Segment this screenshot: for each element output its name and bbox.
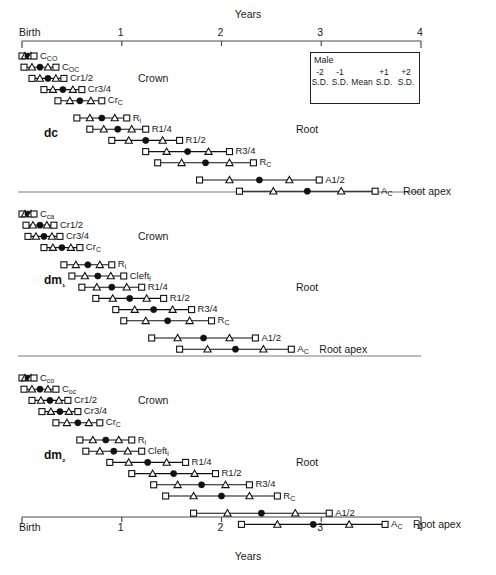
data-row: [197, 176, 323, 183]
row-label: RC: [218, 314, 230, 326]
axis-tick-label-1: 1: [118, 521, 124, 533]
stage-label-crown: Crown: [138, 72, 168, 84]
row-label: Cco: [40, 372, 54, 384]
data-row: [74, 114, 130, 121]
row-label: CrC: [108, 94, 123, 106]
data-row: [143, 148, 233, 155]
stage-label-root-apex: Root apex: [413, 518, 461, 530]
data-row: [19, 210, 37, 217]
data-row: [107, 459, 189, 466]
row-label: A1/2: [325, 174, 345, 185]
data-row: [19, 374, 37, 381]
data-row: [25, 233, 63, 240]
legend-sd-label-2: Mean: [351, 77, 373, 87]
row-label: R3/4: [198, 303, 218, 314]
axis-tick-label-2: 2: [218, 26, 224, 38]
row-label: A1/2: [261, 332, 281, 343]
data-row: [79, 284, 145, 291]
stage-label-crown: Crown: [138, 230, 168, 242]
row-label: RC: [259, 156, 271, 168]
data-row: [113, 306, 195, 313]
row-label: R1/4: [152, 123, 172, 134]
data-row: [93, 295, 167, 302]
top-axis-title: Years: [0, 8, 496, 20]
panel-name-label: dc: [44, 126, 58, 140]
data-row: [69, 272, 127, 279]
stage-label-root-apex: Root apex: [319, 343, 367, 355]
dental-development-chart: Birth1234Birth1234YearsYearsCCOCOCCr1/2C…: [0, 0, 496, 575]
data-row: [61, 261, 115, 268]
panel-name-label: dm₂: [44, 448, 66, 464]
bottom-axis-title: Years: [0, 550, 496, 562]
axis-tick-label-4: 4: [417, 26, 423, 38]
axis-tick-label-3: 3: [317, 521, 323, 533]
row-label: COC: [62, 61, 79, 73]
row-label: CrC: [106, 416, 121, 428]
row-label: R1/2: [170, 292, 190, 303]
row-label: Cr1/2: [74, 394, 97, 405]
row-label: CCO: [40, 50, 57, 62]
stage-label-root: Root: [296, 123, 318, 135]
row-label: Cr1/2: [60, 219, 83, 230]
row-label: Clefti: [130, 270, 151, 282]
data-row: [163, 492, 281, 499]
row-label: Cr3/4: [66, 230, 89, 241]
legend-sd-label-4: S.D.: [395, 77, 417, 87]
chart-graphics: [0, 0, 496, 575]
data-row: [41, 244, 83, 251]
row-label: R3/4: [255, 478, 275, 489]
data-row: [53, 419, 103, 426]
legend-sd-label-1: S.D.: [329, 77, 351, 87]
axis-tick-label-3: 3: [317, 26, 323, 38]
legend-sd-label-3: S.D.: [373, 77, 395, 87]
data-row: [151, 481, 253, 488]
data-row: [177, 346, 295, 353]
row-label: Cr3/4: [88, 83, 111, 94]
axis-tick-label-2: 2: [218, 521, 224, 533]
row-label: Cr3/4: [84, 405, 107, 416]
row-label: Cca: [40, 208, 54, 220]
row-label: Ri: [133, 112, 141, 124]
data-row: [77, 436, 135, 443]
row-label: Coc: [62, 383, 76, 395]
data-row: [29, 397, 71, 404]
data-row: [29, 75, 67, 82]
legend-sd-number-1: -1: [331, 67, 349, 77]
data-row: [155, 159, 257, 166]
row-label: R1/2: [222, 467, 242, 478]
data-row: [21, 64, 59, 71]
axis-tick-label-0: Birth: [19, 521, 41, 533]
stage-label-root: Root: [296, 456, 318, 468]
row-label: AC: [381, 185, 392, 197]
row-label: Clefti: [148, 445, 169, 457]
time-axis: [22, 41, 421, 48]
row-label: CrC: [86, 241, 101, 253]
legend-sd-label-0: S.D.: [309, 77, 331, 87]
data-row: [109, 137, 183, 144]
row-label: Ri: [118, 258, 126, 270]
row-label: R1/4: [148, 281, 168, 292]
row-label: R1/4: [192, 456, 212, 467]
stage-label-crown: Crown: [138, 394, 168, 406]
data-row: [87, 126, 149, 133]
data-row: [83, 448, 145, 455]
row-label: AC: [391, 518, 402, 530]
axis-tick-label-0: Birth: [19, 26, 41, 38]
row-label: AC: [297, 343, 308, 355]
row-label: Cr1/2: [70, 72, 93, 83]
row-label: R3/4: [235, 145, 255, 156]
legend-sd-number-3: +1: [375, 67, 393, 77]
legend-title: Male: [314, 55, 334, 65]
data-row: [39, 408, 81, 415]
panel-name-label: dm₁: [44, 273, 65, 289]
data-row: [121, 317, 215, 324]
data-row: [129, 470, 219, 477]
row-label: R1/2: [186, 134, 206, 145]
row-label: Ri: [138, 434, 146, 446]
legend-sd-number-4: +2: [397, 67, 415, 77]
data-row: [55, 97, 105, 104]
stage-label-root-apex: Root apex: [403, 185, 451, 197]
data-row: [19, 52, 37, 59]
row-label: RC: [283, 490, 295, 502]
data-row: [191, 510, 333, 517]
